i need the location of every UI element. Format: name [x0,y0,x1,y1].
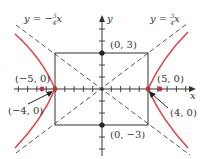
point-top [99,50,104,55]
hyperbola-left-branch [15,34,55,148]
point-right-vertex [146,87,151,92]
hyperbola-right-branch [148,32,188,148]
point-bottom [99,122,104,127]
point-left-vertex-label: (−5, 0) [15,73,50,84]
point-bottom-label: (0, −3) [110,129,145,140]
point-top-label: (0, 3) [110,39,137,50]
point-left-vertex [53,87,58,92]
asymptote-left-label: y = −34x [23,12,62,26]
y-axis-label: y [106,13,113,24]
hyperbola-diagram: y = −34x y = 34x y x (0, 3) (0, −3) (−5,… [0,0,203,159]
arrow-left-focus [28,93,50,104]
asymptote-right-label: y = 34x [149,12,180,26]
point-right-focus [158,87,163,92]
origin-point [100,87,104,91]
point-right-focus-label: (4, 0) [170,107,197,118]
x-axis-label: x [190,90,196,101]
y-axis-arrow-icon [99,15,105,22]
point-left-focus [40,87,45,92]
point-right-vertex-label: (5, 0) [157,73,184,84]
point-left-focus-label: (−4, 0) [8,105,43,116]
